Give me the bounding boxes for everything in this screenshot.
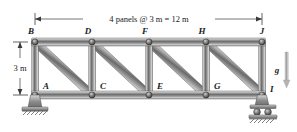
span-arrowhead-right (256, 17, 262, 22)
gravity-label: g (274, 65, 280, 75)
joint-label-J: J (259, 26, 265, 36)
roller-support-ground-hatch (249, 119, 277, 123)
joint-label-D: D (84, 26, 92, 36)
diagonal-member-B-C (31, 38, 95, 98)
joint-label-E: E (156, 81, 163, 91)
joint-pin-H (203, 39, 209, 45)
roller-wheel-right (265, 109, 272, 116)
gravity-arrow-head (283, 80, 290, 88)
roller-support-topplate (250, 105, 276, 109)
vertical-member-A-B (32, 42, 39, 95)
vertical-member-G-H (203, 42, 210, 95)
roller-support-baseplate (249, 115, 277, 119)
top-joint-labels: B D F H J (27, 26, 265, 36)
pin-support-baseplate (22, 107, 48, 111)
joint-label-F: F (141, 26, 148, 36)
height-arrowhead-bottom (18, 89, 23, 95)
joint-label-H: H (197, 26, 206, 36)
diagonal-member-F-G (145, 38, 209, 98)
vertical-member-E-F (146, 42, 153, 95)
joint-label-I: I (269, 84, 274, 94)
height-dimension: 3 m (13, 42, 28, 95)
joint-label-A: A (42, 81, 49, 91)
height-dimension-label: 3 m (14, 63, 27, 73)
roller-support-body (255, 95, 269, 106)
diagonal-member-H-I (202, 38, 266, 98)
joint-label-B: B (27, 26, 34, 36)
span-arrowhead-left (35, 17, 41, 22)
vertical-member-I-J (259, 42, 266, 95)
joint-pin-J (259, 39, 265, 45)
diagonal-member-D-E (88, 38, 152, 98)
span-dimension: 4 panels @ 3 m = 12 m (35, 13, 262, 25)
joint-pin-C (89, 92, 95, 98)
truss-diagram-canvas: 4 panels @ 3 m = 12 m 3 m (0, 0, 297, 132)
truss-figure: 4 panels @ 3 m = 12 m 3 m (0, 0, 297, 132)
pin-support-body (28, 95, 42, 108)
joint-pin-E (146, 92, 152, 98)
roller-wheel-left (254, 109, 261, 116)
joint-pin-G (203, 92, 209, 98)
joint-pin-F (146, 39, 152, 45)
joint-pin-D (89, 39, 95, 45)
gravity-arrow-shaft (285, 52, 288, 82)
span-dimension-label: 4 panels @ 3 m = 12 m (109, 14, 189, 24)
gravity-indicator: g (274, 52, 290, 88)
pin-support-ground-hatch (22, 111, 48, 115)
joint-label-C: C (100, 81, 107, 91)
joint-label-G: G (214, 81, 221, 91)
joint-pin-B (32, 39, 38, 45)
vertical-member-C-D (89, 42, 96, 95)
height-arrowhead-top (18, 42, 23, 48)
